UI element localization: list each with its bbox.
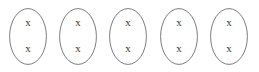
x-mark: x (59, 17, 97, 28)
x-mark: x (210, 17, 248, 28)
oval-group[interactable]: x x (109, 8, 147, 65)
x-mark: x (9, 17, 47, 28)
x-mark: x (160, 17, 198, 28)
x-mark: x (59, 43, 97, 54)
x-mark: x (160, 43, 198, 54)
x-mark: x (210, 43, 248, 54)
x-mark: x (109, 43, 147, 54)
oval-group[interactable]: x x (59, 8, 97, 65)
oval-group[interactable]: x x (210, 8, 248, 65)
oval-group[interactable]: x x (9, 8, 47, 65)
diagram-canvas: x x x x x x x x (0, 0, 259, 72)
x-mark: x (109, 17, 147, 28)
oval-group[interactable]: x x (160, 8, 198, 65)
x-mark: x (9, 43, 47, 54)
